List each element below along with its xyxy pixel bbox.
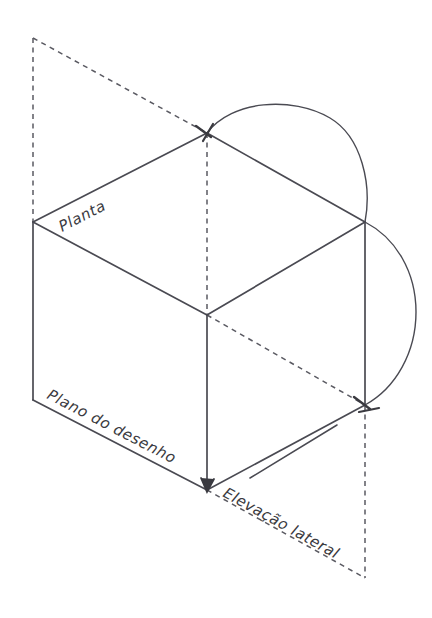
technical-drawing-canvas: Planta Plano do desenho Elevação lateral [0,0,432,618]
rotation-arc-side-elevation [365,222,416,405]
dashed-line-center-to-right [207,315,365,405]
edge-plan-upper-right [207,133,365,222]
rotation-arcs [207,104,416,405]
arrowhead-top-vertex [196,124,213,141]
leader-line-group [250,425,337,478]
label-plano-do-desenho: Plano do desenho [44,386,179,468]
solid-plane-edges [33,133,365,490]
leader-line-elevacao-lateral [250,425,337,478]
dashed-line-top-diagonal [33,38,207,133]
label-planta: Planta [56,197,109,236]
rotation-arc-plan [207,104,367,222]
isometric-projection-figure: Planta Plano do desenho Elevação lateral [0,0,432,618]
edge-plan-lower-left [33,222,207,315]
label-elevacao-lateral: Elevação lateral [220,484,343,563]
edge-plan-upper-left [33,133,207,222]
dashed-projection-lines [33,38,365,578]
edge-bottom-right [207,405,365,490]
edge-bottom-left [33,400,207,490]
edge-plan-lower-right [207,222,365,315]
arrowhead-bottom-center-vertex [201,478,214,492]
